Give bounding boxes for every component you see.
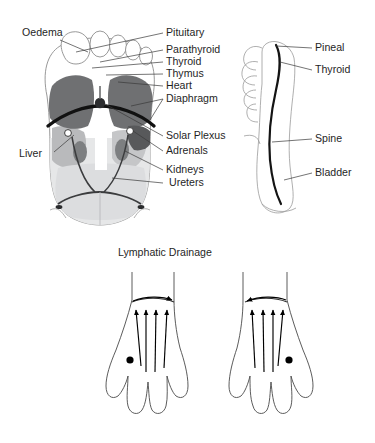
reflexology-chart: Oedema Liver Pituitary Parathyroid Thyro… (0, 0, 375, 443)
label-heart: Heart (166, 79, 192, 91)
solar-plexus-point (95, 98, 105, 108)
medial-toe-5 (247, 104, 258, 122)
medial-toe-1 (244, 46, 262, 70)
left-foot-outline (106, 272, 188, 413)
label-pineal: Pineal (315, 41, 344, 53)
toe-2 (90, 31, 110, 57)
label-oedema: Oedema (22, 26, 63, 38)
right-foot-reflex-point (285, 356, 292, 363)
label-solar-plexus: Solar Plexus (166, 129, 225, 141)
label-kidneys: Kidneys (166, 163, 204, 175)
medial-arch-line (244, 135, 260, 144)
label-bladder: Bladder (315, 166, 352, 178)
label-adrenals: Adrenals (166, 144, 208, 156)
spine-reflex-line (269, 45, 281, 204)
bladder-point-right (138, 205, 145, 209)
adrenal-right-point (127, 128, 134, 135)
label-diaphragm: Diaphragm (166, 92, 218, 104)
lymphatic-drainage-title: Lymphatic Drainage (118, 246, 212, 258)
label-liver: Liver (19, 147, 42, 159)
lymphatic-group: Lymphatic Drainage (106, 246, 313, 413)
right-foot-outline (229, 272, 313, 413)
lymphatic-left-foot (106, 272, 188, 413)
toe-5 (140, 47, 153, 65)
medial-foot-group: Pineal Thyroid Spine Bladder (242, 41, 352, 213)
chart-canvas: Oedema Liver Pituitary Parathyroid Thyro… (0, 0, 375, 443)
label-thyroid-medial: Thyroid (315, 63, 350, 75)
toe-3 (110, 35, 127, 57)
plantar-foot-group: Oedema Liver Pituitary Parathyroid Thyro… (19, 26, 225, 226)
left-foot-reflex-point (126, 356, 133, 363)
medial-heel-line (262, 204, 296, 211)
label-thymus: Thymus (166, 67, 204, 79)
label-parathyroid: Parathyroid (166, 43, 220, 55)
label-spine: Spine (315, 132, 342, 144)
big-toe (61, 32, 90, 64)
label-pituitary: Pituitary (166, 26, 205, 38)
adrenal-left-point (65, 130, 72, 137)
lymphatic-right-foot (229, 272, 313, 413)
bladder-point-left (56, 205, 63, 209)
medial-toe-4 (244, 90, 257, 110)
spine-column-gap (95, 70, 107, 170)
medial-leader-lines (272, 46, 312, 180)
label-thyroid: Thyroid (166, 55, 201, 67)
label-ureters: Ureters (169, 176, 204, 188)
